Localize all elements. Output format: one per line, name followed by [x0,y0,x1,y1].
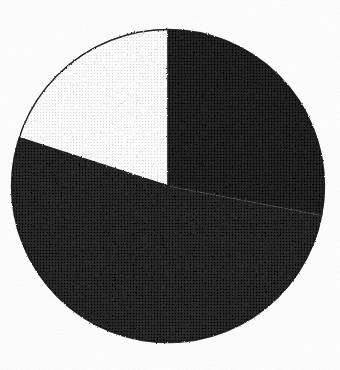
pie-chart-svg: Pie chart with three segments: a large d… [0,0,340,370]
pie-disc [11,29,325,343]
pie-chart-figure: Pie chart with three segments: a large d… [0,0,340,370]
